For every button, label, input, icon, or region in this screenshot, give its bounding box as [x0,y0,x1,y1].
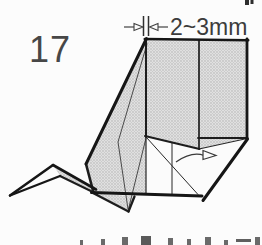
origami-diagram: 2~3mm 17 [0,0,262,245]
origami-step-panel: 2~3mm 17 [0,0,262,245]
step-number: 17 [29,29,71,70]
measurement-label: 2~3mm [170,14,247,40]
wing-block [146,39,247,149]
